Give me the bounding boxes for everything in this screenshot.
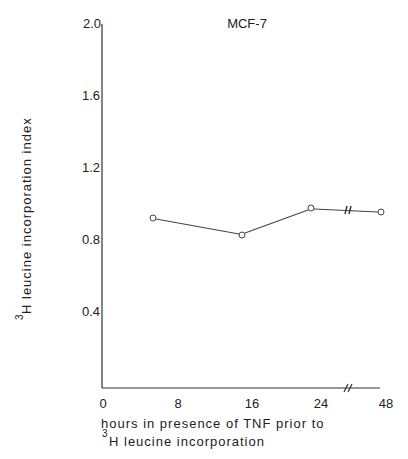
y-tick-2.0: 2.0	[83, 16, 101, 31]
y-axis-label: H leucine incorporation index	[19, 117, 34, 314]
x-tick-16: 16	[245, 396, 259, 411]
x-tick-8: 8	[174, 396, 181, 411]
x-tick-24: 24	[314, 396, 328, 411]
data-point	[239, 232, 245, 238]
y-tick-0.4: 0.4	[82, 304, 100, 319]
x-tick-0: 0	[99, 396, 106, 411]
data-point	[150, 215, 156, 221]
data-point	[378, 209, 384, 215]
data-markers	[150, 205, 384, 238]
y-tick-1.6: 1.6	[82, 88, 100, 103]
x-axis-label-sup: 3	[102, 428, 108, 439]
chart-title: MCF-7	[227, 16, 267, 31]
series-break-icon	[345, 206, 351, 214]
chart: 2.0 1.6 1.2 0.8 0.4 0 8 16 24 48 MCF-7 h…	[0, 0, 408, 459]
x-tick-48: 48	[379, 396, 393, 411]
data-point	[308, 205, 314, 211]
y-tick-0.8: 0.8	[82, 232, 100, 247]
y-tick-1.2: 1.2	[82, 160, 100, 175]
x-axis-label-line1: hours in presence of TNF prior to	[101, 416, 325, 431]
x-axis-label-line2: H leucine incorporation	[109, 434, 265, 449]
